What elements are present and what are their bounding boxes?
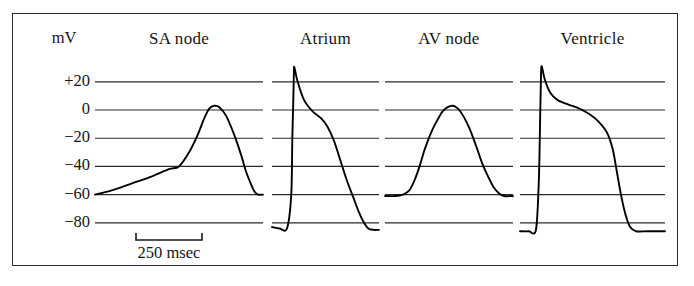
- scale-bar-bracket: [136, 233, 202, 240]
- waveform-ventricle: [520, 66, 665, 233]
- y-tick-label: +20: [34, 71, 90, 91]
- panel-title-av-node: AV node: [374, 29, 524, 49]
- y-tick-label: 0: [34, 99, 90, 119]
- waveform-sa-node: [95, 106, 263, 195]
- waveform-av-node: [385, 106, 513, 196]
- scale-bar-caption: 250 msec: [79, 243, 259, 263]
- gridlines-group: [95, 82, 665, 223]
- y-tick-label: −80: [34, 212, 90, 232]
- panel-title-ventricle: Ventricle: [518, 29, 668, 49]
- y-tick-label: −40: [34, 155, 90, 175]
- y-tick-label: −60: [34, 184, 90, 204]
- y-axis-units-label: mV: [38, 28, 90, 48]
- waveform-traces-group: [95, 66, 665, 233]
- waveform-atrium: [272, 67, 379, 231]
- y-tick-label: −20: [34, 127, 90, 147]
- panel-title-sa-node: SA node: [104, 29, 254, 49]
- scale-bar-group: [136, 233, 202, 240]
- action-potential-figure: mV +200−20−40−60−80 SA nodeAtriumAV node…: [0, 0, 694, 286]
